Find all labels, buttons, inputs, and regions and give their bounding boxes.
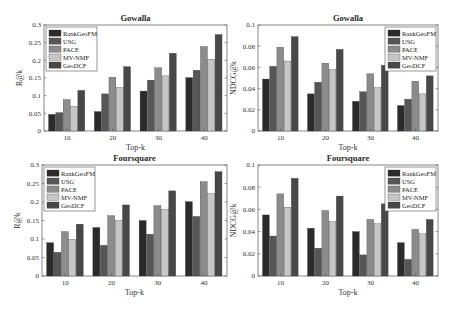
bar-geodcf: [336, 196, 343, 276]
chart-title: Foursquare: [327, 153, 370, 163]
bar-rankgeofm: [353, 232, 360, 276]
bar-geodcf: [426, 219, 433, 276]
bar-mv-nmf: [284, 207, 291, 276]
y-tick-label: 0.04: [243, 228, 256, 236]
bar-usg: [360, 255, 367, 276]
bar-usg: [315, 248, 322, 276]
legend-swatch: [388, 186, 400, 192]
legend-swatch: [388, 170, 400, 176]
bar-pace: [412, 229, 419, 276]
legend-label: RankGeoFM: [402, 170, 436, 177]
x-tick-label: 30: [367, 279, 375, 287]
x-axis-label: Top-k: [339, 288, 358, 297]
legend-label: USG: [402, 178, 415, 185]
bar-geodcf: [291, 178, 298, 276]
y-tick-label: 0.06: [243, 206, 256, 214]
x-tick-label: 40: [412, 279, 420, 287]
legend-swatch: [388, 202, 400, 208]
bar-geodcf: [381, 204, 388, 276]
y-tick-label: 0: [252, 272, 256, 280]
bar-usg: [405, 259, 412, 276]
bar-rankgeofm: [398, 243, 405, 276]
y-tick-label: 0.02: [243, 250, 256, 258]
bar-pace: [322, 211, 329, 276]
bar-mv-nmf: [374, 224, 381, 276]
legend: RankGeoFMUSGPACEMV-NMFGeoDCF: [385, 167, 436, 211]
legend-label: MV-NMF: [402, 194, 429, 201]
bar-usg: [270, 236, 277, 276]
x-tick-label: 10: [277, 279, 285, 287]
legend-swatch: [388, 194, 400, 200]
bar-mv-nmf: [329, 222, 336, 276]
bar-rankgeofm: [308, 228, 315, 276]
y-tick-label: 0.1: [246, 161, 255, 169]
y-axis-label: NDCG@k: [229, 203, 238, 237]
legend-label: PACE: [402, 186, 418, 193]
legend-swatch: [388, 178, 400, 184]
y-tick-label: 0.08: [243, 184, 256, 192]
x-tick-label: 20: [322, 279, 330, 287]
legend-label: GeoDCF: [402, 202, 426, 209]
bar-mv-nmf: [419, 234, 426, 276]
bar-pace: [277, 194, 284, 276]
bar-pace: [367, 219, 374, 276]
bar-rankgeofm: [263, 215, 270, 276]
